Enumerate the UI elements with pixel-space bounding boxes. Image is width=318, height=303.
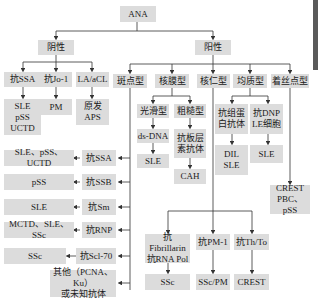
negative-node: 阴性: [38, 40, 74, 55]
speckled-ssb-disease: pSS: [4, 174, 74, 190]
ana-root-node: ANA: [120, 6, 156, 22]
pattern-centromere-node: 着丝点型: [271, 74, 309, 88]
speckled-other-antibody: 其他（PCNA、Ku） 或未知抗体: [50, 270, 116, 297]
nucleolar-thto-node: 抗Th/To: [234, 234, 269, 250]
speckled-sm-disease: SLE: [4, 199, 74, 215]
speckled-sm-antibody: 抗Sm: [82, 199, 116, 215]
speckled-rnp-antibody: 抗RNP: [82, 222, 116, 238]
nucleolar-pm1-disease: SSc/PM: [196, 274, 230, 290]
homog-dnp-disease: SLE: [250, 145, 283, 163]
speckled-scl70-disease: SSc: [4, 248, 66, 264]
neg-anti-ssa-node: 抗SSA: [4, 72, 41, 87]
nucleolar-pm1-node: 抗PM-1: [196, 234, 230, 250]
pattern-nucleolar-node: 核仁型: [197, 74, 230, 88]
pattern-speckled-node: 斑点型: [113, 74, 147, 88]
centromere-disease-node: CREST PBC、pSS: [270, 185, 310, 214]
speckled-ssa-disease: SLE、pSS、UCTD: [4, 150, 74, 166]
membrane-smooth-node: 光滑型: [137, 104, 169, 118]
neg-la-result-node: 原发 APS: [76, 99, 109, 125]
speckled-ssb-antibody: 抗SSB: [82, 174, 116, 190]
pattern-membrane-node: 核膜型: [155, 74, 189, 88]
speckled-ssa-antibody: 抗SSA: [82, 150, 116, 166]
nucleolar-fibrillarin-disease: SSc: [145, 274, 190, 290]
pattern-homogeneous-node: 均质型: [233, 74, 267, 88]
positive-node: 阳性: [195, 40, 231, 55]
speckled-rnp-disease: MCTD、SLE、SSc: [4, 222, 74, 238]
nucleolar-fibrillarin-node: 抗Fibrillarin 抗RNA Pol: [145, 234, 190, 263]
neg-jo1-result-node: PM: [40, 99, 72, 115]
neg-la-acl-node: LA/aCL: [76, 72, 109, 87]
membrane-smooth-disease: SLE: [137, 154, 169, 168]
membrane-rough-disease: CAH: [174, 169, 206, 184]
homog-histone-node: 抗组蛋 白抗体: [215, 104, 248, 134]
homog-dnp-node: 抗DNP LE细胞: [250, 104, 283, 134]
nucleolar-thto-disease: CREST: [234, 274, 269, 290]
neg-anti-jo1-node: 抗Jo-1: [40, 72, 72, 87]
membrane-lamin-node: 抗板层 素抗体: [174, 129, 206, 158]
speckled-scl70-antibody: 抗Scl-70: [76, 248, 116, 264]
membrane-rough-node: 粗糙型: [174, 104, 206, 118]
homog-histone-disease: DIL SLE: [215, 145, 248, 175]
membrane-dsdna-node: ds-DNA: [137, 129, 169, 143]
neg-ssa-result-node: SLE pSS UCTD: [4, 99, 41, 135]
